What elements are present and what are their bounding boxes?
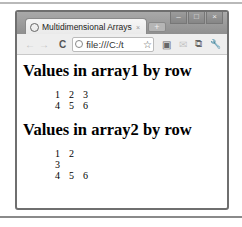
array-value: 5 (69, 100, 83, 111)
array-value: 4 (55, 100, 69, 111)
array-value: 2 (69, 148, 83, 159)
array1-heading: Values in array1 by row (23, 60, 227, 82)
array-row: 1 2 (55, 148, 227, 159)
array-value: 1 (55, 89, 69, 100)
array-row: 1 2 3 (55, 89, 227, 100)
bookmark-star-icon[interactable]: ☆ (143, 39, 152, 50)
tab-close-icon[interactable]: × (136, 24, 140, 31)
translate-icon[interactable]: ▣ (162, 39, 171, 50)
array-value: 5 (69, 170, 83, 181)
address-bar[interactable]: file:///C:/t ☆ (72, 37, 154, 52)
array-value: 3 (55, 159, 69, 170)
array-value: 2 (69, 89, 83, 100)
browser-window: Multidimensional Arrays × + – □ × ← → C … (15, 10, 229, 210)
wrench-icon[interactable]: 🔧 (210, 39, 221, 49)
array-value: 1 (55, 148, 69, 159)
browser-tab[interactable]: Multidimensional Arrays × (25, 18, 147, 35)
array2-rows: 1 2 3 4 5 6 (55, 148, 227, 181)
reload-icon[interactable]: C (59, 39, 66, 50)
array1-section: Values in array1 by row 1 2 3 4 5 6 (23, 60, 227, 111)
new-tab-button[interactable]: + (148, 22, 166, 32)
bottom-divider (0, 216, 242, 218)
back-arrow-icon[interactable]: ← (25, 39, 35, 50)
title-bar: Multidimensional Arrays × + – □ × (17, 12, 227, 34)
array-value: 4 (55, 170, 69, 181)
extension-icon[interactable]: ⧉ (195, 38, 202, 50)
top-divider (0, 2, 242, 4)
array1-rows: 1 2 3 4 5 6 (55, 89, 227, 111)
array-row: 3 (55, 159, 227, 170)
array-row: 4 5 6 (55, 170, 227, 181)
browser-toolbar: ← → C file:///C:/t ☆ ▣ ✉ ⧉ 🔧 (17, 34, 227, 55)
array-value: 6 (83, 170, 97, 181)
forward-arrow-icon[interactable]: → (39, 39, 49, 50)
globe-icon (30, 23, 39, 32)
window-controls: – □ × (169, 12, 223, 24)
page-globe-icon (75, 40, 83, 48)
url-text[interactable]: file:///C:/t (86, 39, 143, 50)
maximize-button[interactable]: □ (188, 12, 205, 24)
page-content: Values in array1 by row 1 2 3 4 5 6 Valu… (17, 55, 227, 208)
close-window-button[interactable]: × (206, 12, 223, 24)
tab-title: Multidimensional Arrays (42, 22, 136, 32)
array-value: 3 (83, 89, 97, 100)
mail-icon[interactable]: ✉ (179, 39, 187, 50)
array2-heading: Values in array2 by row (23, 119, 227, 141)
minimize-button[interactable]: – (170, 12, 187, 24)
array2-section: Values in array2 by row 1 2 3 4 5 6 (23, 119, 227, 181)
array-row: 4 5 6 (55, 100, 227, 111)
array-value: 6 (83, 100, 97, 111)
